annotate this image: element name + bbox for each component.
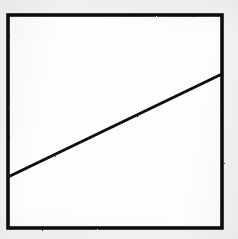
line-drawing-svg — [0, 0, 238, 239]
frame-interior — [10, 17, 220, 226]
figure-canvas — [0, 0, 238, 239]
